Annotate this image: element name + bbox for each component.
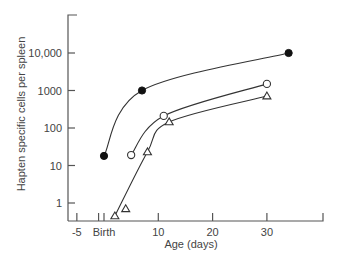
data-point-open-triangle: [143, 148, 151, 155]
x-axis: [68, 213, 323, 221]
x-axis-label: Age (days): [164, 238, 217, 250]
x-ticks: -5Birth102030: [72, 213, 273, 238]
curve-open-triangle: [115, 96, 267, 216]
data-point-open-triangle: [122, 205, 130, 212]
data-point-open-circle: [128, 151, 135, 158]
data-point-filled-circle: [100, 152, 107, 159]
chart: 110100100010,000 -5Birth102030 Hapten sp…: [0, 0, 337, 265]
data-point-filled-circle: [138, 87, 145, 94]
x-tick-label: Birth: [93, 226, 116, 238]
curve-filled-circle: [104, 53, 289, 156]
x-tick-label: 20: [206, 226, 218, 238]
y-tick-label: 1000: [38, 85, 62, 97]
y-tick-label: 10,000: [28, 47, 62, 59]
data-point-open-circle: [160, 112, 167, 119]
y-tick-label: 1: [56, 197, 62, 209]
data-point-open-triangle: [263, 92, 271, 99]
x-tick-label: -5: [72, 226, 82, 238]
axes: [68, 15, 323, 221]
x-tick-label: 30: [261, 226, 273, 238]
data-point-open-triangle: [111, 212, 119, 219]
data-curves: [104, 53, 289, 216]
y-axis-label: Hapten specific cells per spleen: [15, 37, 27, 192]
data-point-filled-circle: [285, 49, 292, 56]
x-tick-label: 10: [152, 226, 164, 238]
y-tick-label: 100: [44, 122, 62, 134]
data-point-open-circle: [263, 80, 270, 87]
data-markers: [100, 49, 292, 218]
y-tick-label: 10: [50, 160, 62, 172]
y-axis: [68, 15, 77, 221]
